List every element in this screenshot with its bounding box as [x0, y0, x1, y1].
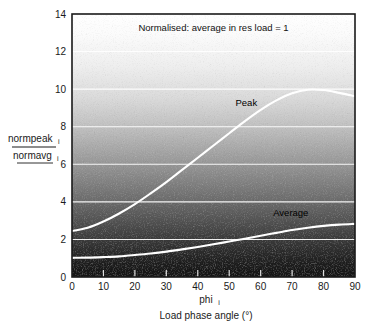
ytick-label-6: 6 [60, 159, 66, 170]
ytick-label-4: 4 [60, 196, 66, 207]
ytick-label-14: 14 [55, 9, 67, 20]
ytick-label-2: 2 [60, 234, 66, 245]
y-axis-numerator: normpeak [8, 133, 53, 144]
series-annotation-average: Average [273, 207, 308, 218]
xtick-label-30: 30 [161, 281, 173, 292]
chart-canvas: Normalised: average in res load = 1 Peak… [0, 0, 373, 325]
ytick-label-10: 10 [55, 84, 67, 95]
xtick-label-10: 10 [98, 281, 110, 292]
plot-title: Normalised: average in res load = 1 [138, 22, 288, 33]
ytick-label-0: 0 [60, 272, 66, 283]
ytick-label-12: 12 [55, 46, 67, 57]
xtick-label-90: 90 [349, 281, 361, 292]
xtick-label-70: 70 [287, 281, 299, 292]
chart-figure: Normalised: average in res load = 1 Peak… [0, 0, 373, 325]
y-axis-denominator: normavg [13, 150, 52, 161]
xtick-label-40: 40 [192, 281, 204, 292]
x-axis-symbol-text: phi [199, 294, 212, 305]
xtick-label-20: 20 [129, 281, 141, 292]
xtick-label-0: 0 [69, 281, 75, 292]
x-axis-title: Load phase angle (°) [160, 310, 253, 321]
xtick-label-60: 60 [255, 281, 267, 292]
ytick-label-8: 8 [60, 121, 66, 132]
series-annotation-peak: Peak [236, 97, 258, 108]
xtick-label-50: 50 [224, 281, 236, 292]
xtick-label-80: 80 [318, 281, 330, 292]
